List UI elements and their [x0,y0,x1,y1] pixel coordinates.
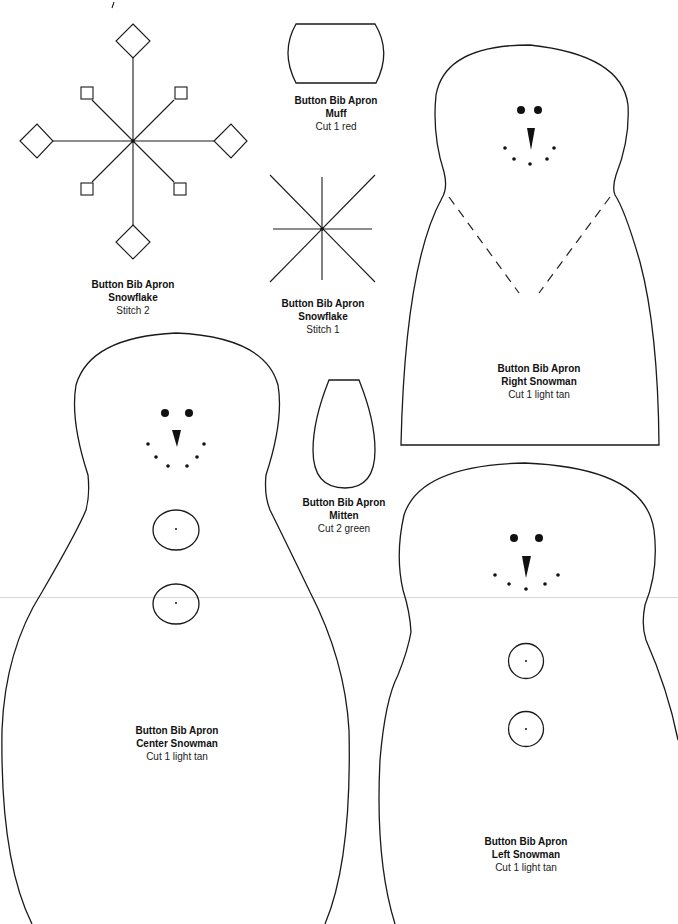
mitten-shape [313,380,375,488]
label-title: Button Bib Apron [92,278,175,291]
label-title: Button Bib Apron [485,835,568,848]
snowflake-stitch2-label: Button Bib Apron Snowflake Stitch 2 [92,278,175,317]
label-title: Button Bib Apron [295,94,378,107]
label-piece-name: Muff [295,107,378,120]
label-piece-name: Mitten [303,509,386,522]
label-title: Button Bib Apron [282,297,365,310]
stray-mark [112,2,114,8]
label-instruction: Cut 1 red [295,120,378,133]
label-instruction: Stitch 1 [282,323,365,336]
snowflake-stitch1-label: Button Bib Apron Snowflake Stitch 1 [282,297,365,336]
label-instruction: Cut 1 light tan [498,388,581,401]
label-piece-name: Snowflake [282,310,365,323]
right-snowman-label: Button Bib Apron Right Snowman Cut 1 lig… [498,362,581,401]
label-instruction: Cut 1 light tan [485,861,568,874]
label-piece-name: Left Snowman [485,848,568,861]
center-snowman-shape [2,333,349,924]
snowflake-stitch1-shape [270,175,375,282]
label-instruction: Cut 1 light tan [136,750,219,763]
label-piece-name: Center Snowman [136,737,219,750]
label-instruction: Stitch 2 [92,304,175,317]
label-piece-name: Snowflake [92,291,175,304]
snowflake-stitch2-shape [20,24,247,259]
pattern-artwork [0,0,678,924]
center-snowman-label: Button Bib Apron Center Snowman Cut 1 li… [136,724,219,763]
label-title: Button Bib Apron [136,724,219,737]
left-snowman-label: Button Bib Apron Left Snowman Cut 1 ligh… [485,835,568,874]
label-title: Button Bib Apron [303,496,386,509]
muff-shape [288,24,384,83]
label-instruction: Cut 2 green [303,522,386,535]
label-title: Button Bib Apron [498,362,581,375]
muff-label: Button Bib Apron Muff Cut 1 red [295,94,378,133]
mitten-label: Button Bib Apron Mitten Cut 2 green [303,496,386,535]
label-piece-name: Right Snowman [498,375,581,388]
